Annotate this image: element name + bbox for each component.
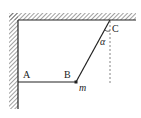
wall: [9, 13, 18, 109]
label-angle: α: [100, 36, 106, 47]
label-mass: m: [79, 82, 86, 93]
label-a: A: [23, 69, 31, 80]
label-c: C: [112, 23, 119, 34]
string-bc: [76, 20, 110, 82]
mass-point: [75, 81, 78, 84]
angle-arc: [105, 30, 111, 31]
diagram-canvas: A B C m α: [0, 0, 141, 118]
ceiling: [9, 13, 136, 20]
label-b: B: [64, 69, 71, 80]
